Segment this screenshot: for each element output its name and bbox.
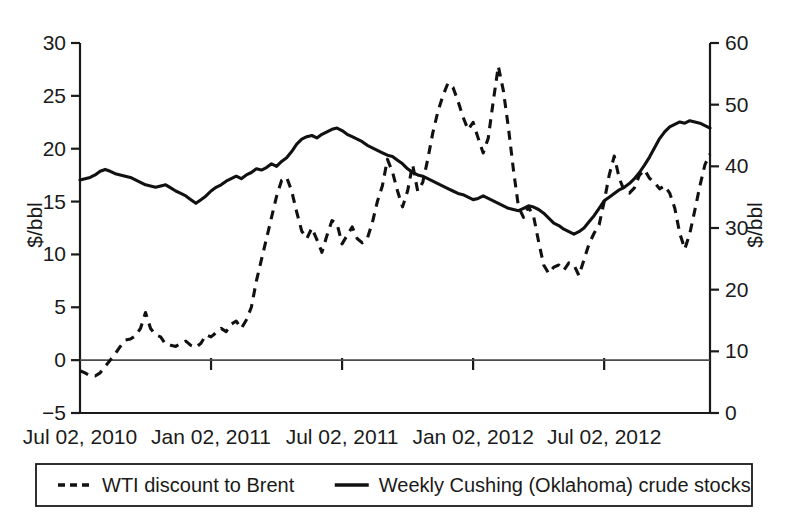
x-tick-label: Jan 02, 2012 — [412, 425, 533, 448]
y-tick-label-left: 20 — [43, 137, 66, 160]
legend-label: Weekly Cushing (Oklahoma) crude stocks — [379, 474, 751, 496]
y-tick-label-left: 0 — [54, 348, 66, 371]
y-tick-label-left: 10 — [43, 242, 66, 265]
y-axis-left-title: $/bbl — [23, 202, 46, 248]
y-tick-label-right: 60 — [725, 31, 748, 54]
x-axis — [80, 358, 710, 413]
data-series-group — [80, 66, 710, 376]
series-line — [80, 66, 710, 376]
y-tick-label-right: 10 — [725, 339, 748, 362]
y-axis-left: 302520151050−5 — [42, 31, 80, 424]
x-tick-label: Jan 02, 2011 — [151, 425, 271, 448]
x-tick-label: Jul 02, 2010 — [23, 425, 137, 448]
chart-canvas: 302520151050−5 6050403020100 Jul 02, 201… — [0, 0, 786, 528]
y-tick-label-left: 30 — [43, 31, 66, 54]
y-tick-label-right: 40 — [725, 154, 748, 177]
y-tick-label-right: 50 — [725, 93, 748, 116]
y-tick-label-left: 5 — [54, 295, 66, 318]
y-tick-label-left: −5 — [42, 401, 66, 424]
y-tick-label-left: 25 — [43, 84, 66, 107]
x-tick-label: Jul 02, 2011 — [286, 425, 399, 448]
y-axis-right-title: $/bbl — [743, 202, 766, 248]
y-tick-label-right: 20 — [725, 278, 748, 301]
legend-label: WTI discount to Brent — [102, 474, 295, 496]
plot-area: 302520151050−5 6050403020100 Jul 02, 201… — [23, 31, 749, 448]
x-tick-labels: Jul 02, 2010Jan 02, 2011Jul 02, 2011Jan … — [23, 425, 662, 448]
x-tick-label: Jul 02, 2012 — [547, 425, 661, 448]
chart-legend: WTI discount to BrentWeekly Cushing (Okl… — [36, 464, 752, 506]
y-tick-label-left: 15 — [43, 190, 66, 213]
y-tick-label-right: 0 — [725, 401, 737, 424]
chart-figure: 302520151050−5 6050403020100 Jul 02, 201… — [0, 0, 786, 528]
